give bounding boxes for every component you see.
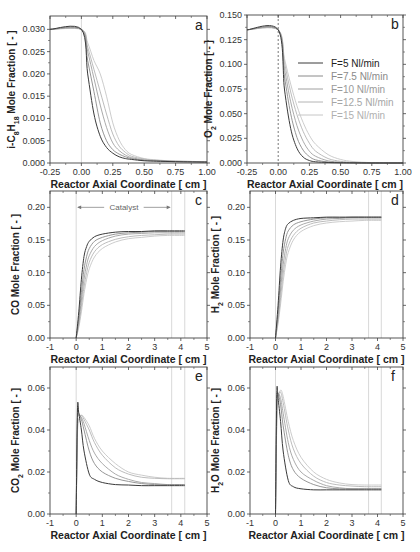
x-tick-label: 3 bbox=[152, 518, 157, 528]
x-tick-label: 2 bbox=[324, 342, 329, 352]
series-line bbox=[76, 402, 185, 514]
x-tick-label: -1 bbox=[246, 518, 254, 528]
x-tick-label: 0 bbox=[74, 342, 79, 352]
series-line bbox=[50, 28, 207, 161]
y-tick-label: 0.020 bbox=[22, 69, 45, 79]
y-tick-label: 0.00 bbox=[227, 333, 245, 343]
legend: F=5 Nl/minF=7.5 Nl/minF=10 Nl/minF=12.5 … bbox=[298, 58, 394, 121]
plot-frame bbox=[50, 367, 207, 514]
x-tick-label: 2 bbox=[324, 518, 329, 528]
y-tick-label: 0.005 bbox=[22, 136, 45, 146]
y-tick-label: 0.05 bbox=[27, 300, 45, 310]
y-tick-label: 0.150 bbox=[219, 10, 242, 20]
y-axis-label: CO Mole Fraction [ - ] bbox=[10, 214, 21, 315]
x-tick-label: 5 bbox=[204, 342, 209, 352]
plot-frame bbox=[250, 367, 403, 514]
panel-e: -10123450.000.020.040.06Reactor Axial Co… bbox=[10, 367, 210, 541]
series-line bbox=[247, 27, 403, 163]
x-axis-label: Reactor Axial Coordinate [ cm ] bbox=[51, 353, 207, 365]
panel-letter: b bbox=[391, 16, 399, 32]
x-tick-label: 4 bbox=[178, 518, 183, 528]
series-line bbox=[276, 390, 382, 514]
plot-frame bbox=[250, 191, 403, 338]
series-line bbox=[50, 26, 207, 162]
x-axis-label: Reactor Axial Coordinate [ cm ] bbox=[51, 178, 207, 190]
panel-letter: f bbox=[391, 368, 395, 384]
catalyst-label: Catalyst bbox=[109, 203, 139, 212]
x-tick-label: 0.25 bbox=[301, 167, 319, 177]
x-tick-label: 0.75 bbox=[363, 167, 381, 177]
figure-canvas: -0.250.000.250.500.751.000.0000.0050.010… bbox=[0, 0, 420, 552]
x-axis-label: Reactor Axial Coordinate [ cm ] bbox=[249, 353, 405, 365]
series-line bbox=[276, 386, 382, 514]
series-line bbox=[76, 415, 185, 514]
legend-entry: F=10 Nl/min bbox=[331, 84, 385, 95]
x-tick-label: 3 bbox=[152, 342, 157, 352]
series-line bbox=[76, 235, 185, 338]
series-line bbox=[247, 27, 403, 163]
y-tick-label: 0.125 bbox=[219, 35, 242, 45]
y-tick-label: 0.02 bbox=[27, 467, 45, 477]
y-tick-label: 0.10 bbox=[27, 268, 45, 278]
x-tick-label: 1 bbox=[298, 342, 303, 352]
y-tick-label: 0.15 bbox=[27, 235, 45, 245]
x-tick-label: 0.50 bbox=[135, 167, 153, 177]
y-tick-label: 0.050 bbox=[219, 109, 242, 119]
x-tick-label: 4 bbox=[375, 342, 380, 352]
y-tick-label: 0.00 bbox=[27, 333, 45, 343]
x-tick-label: 0.50 bbox=[332, 167, 350, 177]
panel-letter: c bbox=[195, 192, 202, 208]
x-tick-label: 5 bbox=[400, 518, 405, 528]
y-tick-label: 0.06 bbox=[27, 383, 45, 393]
x-tick-label: 4 bbox=[375, 518, 380, 528]
x-tick-label: 0.75 bbox=[167, 167, 185, 177]
y-axis-label: O2 Mole Fraction [ - ] bbox=[203, 40, 217, 138]
series-line bbox=[247, 27, 403, 163]
series-line bbox=[50, 28, 207, 162]
series-line bbox=[76, 409, 185, 514]
panel-d: -10123450.000.050.100.150.20Reactor Axia… bbox=[210, 191, 406, 365]
x-tick-label: 1.00 bbox=[198, 167, 216, 177]
y-axis-label: H2 Mole Fraction [ - ] bbox=[210, 216, 224, 313]
panel-c: -10123450.000.050.100.150.20Reactor Axia… bbox=[10, 191, 210, 365]
y-tick-label: 0.20 bbox=[227, 202, 245, 212]
y-tick-label: 0.000 bbox=[219, 158, 242, 168]
y-tick-label: 0.015 bbox=[22, 91, 45, 101]
panel-letter: a bbox=[195, 17, 203, 33]
panel-b: -0.250.000.250.500.751.000.0000.0250.050… bbox=[203, 10, 412, 190]
x-tick-label: -1 bbox=[46, 342, 54, 352]
x-axis-label: Reactor Axial Coordinate [ cm ] bbox=[51, 529, 207, 541]
y-tick-label: 0.075 bbox=[219, 84, 242, 94]
y-tick-label: 0.00 bbox=[227, 509, 245, 519]
legend-entry: F=12.5 Nl/min bbox=[331, 97, 394, 108]
x-tick-label: -1 bbox=[46, 518, 54, 528]
y-tick-label: 0.02 bbox=[227, 467, 245, 477]
x-tick-label: 1 bbox=[100, 342, 105, 352]
series-line bbox=[50, 28, 207, 162]
y-tick-label: 0.06 bbox=[227, 383, 245, 393]
x-tick-label: -0.25 bbox=[40, 167, 61, 177]
catalyst-annotation: Catalyst bbox=[77, 203, 171, 212]
x-tick-label: 4 bbox=[178, 342, 183, 352]
panel-f: -10123450.000.020.040.06Reactor Axial Co… bbox=[210, 367, 406, 541]
y-tick-label: 0.15 bbox=[227, 235, 245, 245]
series-line bbox=[276, 217, 382, 338]
x-tick-label: 1 bbox=[100, 518, 105, 528]
x-tick-label: 0 bbox=[74, 518, 79, 528]
series-line bbox=[276, 217, 382, 338]
y-tick-label: 0.04 bbox=[227, 425, 245, 435]
y-tick-label: 0.10 bbox=[227, 268, 245, 278]
series-line bbox=[247, 28, 403, 163]
y-tick-label: 0.010 bbox=[22, 113, 45, 123]
x-axis-label: Reactor Axial Coordinate [ cm ] bbox=[249, 529, 405, 541]
legend-entry: F=15 Nl/min bbox=[331, 110, 385, 121]
x-tick-label: 5 bbox=[204, 518, 209, 528]
x-tick-label: 0 bbox=[273, 518, 278, 528]
x-tick-label: 1.00 bbox=[394, 167, 412, 177]
x-tick-label: 0 bbox=[273, 342, 278, 352]
x-tick-label: 0.00 bbox=[269, 167, 287, 177]
y-axis-label: CO2 Mole Fraction [ - ] bbox=[10, 388, 24, 493]
y-axis-label: H2O Mole Fraction [ - ] bbox=[210, 388, 224, 493]
y-tick-label: 0.000 bbox=[22, 158, 45, 168]
x-tick-label: 3 bbox=[349, 518, 354, 528]
